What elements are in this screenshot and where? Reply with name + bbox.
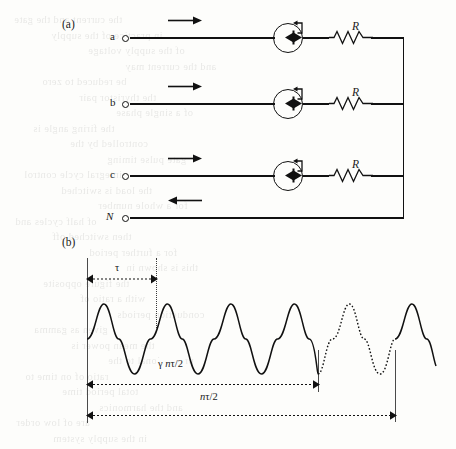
common-bus-vertical: [403, 37, 404, 219]
tau-over-two-symbol: τ/2: [171, 358, 183, 369]
triac-glyph-a-icon: [271, 10, 317, 55]
terminal-dot-b: [122, 101, 129, 108]
wire-c-left: [130, 175, 275, 176]
flow-arrow-c-icon: [168, 154, 202, 163]
page-bleed-line: for a further period: [89, 247, 177, 258]
terminal-label-b: b: [110, 96, 116, 108]
page-bleed-line: of a single phase: [116, 107, 193, 118]
full-span-arrow: [86, 409, 397, 422]
page-bleed-line: the thyristor pair: [79, 92, 156, 103]
tau-label: τ: [113, 262, 121, 273]
page-bleed-line: the firing angle is: [33, 123, 114, 134]
triac-glyph-c-icon: [271, 148, 317, 193]
wire-c-mid: [303, 175, 329, 176]
resistor-c-icon: [329, 167, 373, 184]
wire-c-right: [371, 175, 404, 176]
terminal-dot-c: [122, 173, 129, 180]
figure-container: the current and the gatein practice of t…: [0, 0, 456, 449]
resistor-b-icon: [329, 95, 373, 112]
waveform-resumed-segment: [395, 304, 436, 366]
page-bleed-line: the load is switched: [61, 185, 152, 196]
page-bleed-line: in practice of the supply: [51, 30, 162, 41]
terminal-label-a: a: [110, 30, 115, 42]
page-bleed-line: controlled by the: [70, 138, 148, 149]
waveform-dotted-segment: [318, 304, 395, 374]
flow-arrow-n-icon: [168, 196, 202, 205]
wire-n: [130, 217, 404, 218]
resistor-a-icon: [329, 29, 373, 46]
terminal-dot-n: [122, 215, 129, 222]
terminal-label-n: N: [106, 210, 113, 222]
page-bleed-line: and the current may: [125, 61, 216, 72]
page-bleed-line: integral cycle control: [24, 169, 122, 180]
panel-label-a: (a): [62, 18, 75, 30]
timing-waveform-plot: [60, 296, 456, 382]
terminal-label-c: c: [110, 168, 115, 180]
terminal-dot-a: [122, 35, 129, 42]
gamma-span-arrow: [86, 378, 320, 391]
wire-a-mid: [303, 37, 329, 38]
page-bleed-line: be reduced to zero: [42, 76, 126, 87]
wire-b-mid: [303, 103, 329, 104]
page-bleed-line: in the supply system: [53, 433, 147, 444]
flow-arrow-a-icon: [168, 16, 202, 25]
wire-a-right: [371, 37, 404, 38]
page-bleed-line: are of low order: [16, 417, 90, 428]
wire-b-right: [371, 103, 404, 104]
full-interval-label: nτ/2: [198, 391, 220, 402]
gamma-symbol: γ: [158, 358, 163, 369]
triac-glyph-b-icon: [271, 76, 317, 121]
page-bleed-line: of the supply voltage: [88, 45, 185, 56]
wire-b-left: [130, 103, 275, 104]
flow-arrow-b-icon: [168, 82, 202, 91]
waveform-solid-segment: [87, 304, 318, 374]
panel-label-b: (b): [62, 236, 75, 248]
full-interval-tau-symbol: τ/2: [205, 391, 217, 402]
tau-span-arrow: [86, 272, 158, 286]
gamma-interval-label: γ nτ/2: [156, 358, 185, 369]
page-bleed-line: of half cycles and: [15, 216, 97, 227]
wire-a-left: [130, 37, 275, 38]
